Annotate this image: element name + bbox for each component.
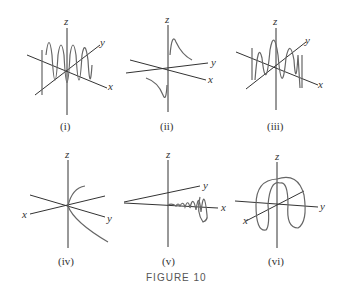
y-axis: [124, 186, 200, 202]
x-label: x: [317, 78, 323, 90]
y-axis: [126, 63, 208, 73]
curve-v: [168, 197, 207, 222]
x-label: x: [207, 73, 213, 85]
x-label: x: [107, 80, 113, 92]
caption-iii: (iii): [267, 120, 284, 133]
y-label: y: [304, 34, 310, 46]
panel-i: z y x (i): [27, 15, 113, 133]
x-axis: [246, 191, 304, 221]
curve-ii-upper: [170, 39, 192, 60]
z-label: z: [64, 148, 70, 160]
curve-vi: [256, 177, 305, 230]
x-label: x: [242, 214, 248, 226]
y-label: y: [319, 200, 325, 212]
x-label: x: [21, 208, 27, 220]
x-axis: [236, 52, 318, 85]
caption-vi: (vi): [268, 255, 284, 268]
z-label: z: [272, 15, 278, 27]
y-label: y: [210, 56, 216, 68]
panel-vi: z y x (vi): [235, 150, 325, 268]
z-label: z: [63, 15, 69, 27]
x-label: x: [220, 201, 226, 213]
curve-iii: [252, 40, 302, 88]
y-label: y: [106, 212, 112, 224]
z-label: z: [274, 150, 280, 162]
curve-ii-lower: [146, 78, 167, 97]
caption-ii: (ii): [160, 120, 174, 133]
z-label: z: [164, 13, 170, 25]
panel-v: z y x (v): [124, 148, 226, 268]
panel-ii: z y x (ii): [126, 13, 216, 133]
caption-iv: (iv): [58, 255, 74, 268]
y-label: y: [99, 36, 105, 48]
caption-v: (v): [162, 255, 175, 268]
curve-iv: [68, 186, 108, 242]
figure-title: FIGURE 10: [146, 272, 207, 283]
y-label: y: [202, 179, 208, 191]
caption-i: (i): [60, 120, 71, 133]
z-label: z: [165, 148, 171, 160]
panel-iv: z x y (iv): [21, 148, 112, 268]
figure-canvas: z y x (i) z y x (ii) z y x (iii) z x y (…: [0, 0, 344, 300]
panel-iii: z y x (iii): [236, 15, 323, 133]
